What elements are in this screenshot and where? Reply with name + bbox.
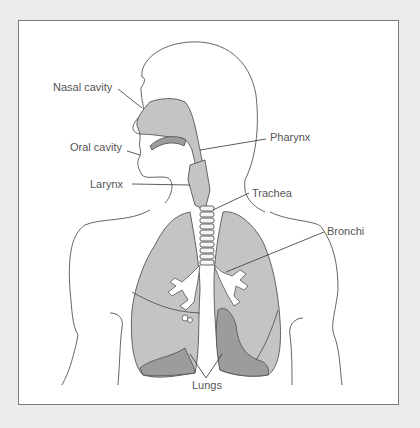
right-arm-inner [290, 318, 303, 385]
label-larynx: Larynx [90, 179, 123, 190]
label-nasal-cavity: Nasal cavity [53, 82, 112, 93]
pharynx-leader [200, 139, 266, 150]
left-arm [62, 335, 78, 385]
label-trachea: Trachea [252, 188, 292, 199]
nasal-cavity-leader [118, 89, 142, 108]
oral-cavity-roof [150, 137, 186, 150]
label-oral-cavity: Oral cavity [70, 142, 122, 153]
larynx-leader [132, 184, 190, 185]
respiratory-illustration [0, 0, 420, 428]
larynx-shape [188, 160, 210, 210]
label-pharynx: Pharynx [270, 132, 310, 143]
label-lungs: Lungs [192, 380, 222, 391]
left-arm-inner [110, 313, 122, 385]
label-bronchi: Bronchi [327, 226, 364, 237]
trachea-leader [213, 193, 249, 210]
trachea-rings [200, 206, 214, 265]
right-arm [334, 335, 342, 385]
oral-cavity-leader [127, 151, 140, 155]
